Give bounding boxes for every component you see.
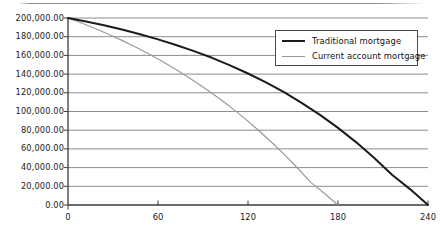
- mortgage-balance-chart: 200,000.00 180,000.00 160,000.00 140,000…: [0, 0, 442, 238]
- x-axis-label-60: 60: [153, 212, 164, 222]
- legend-label-current-account-mortgage: Current account mortgage: [312, 51, 425, 61]
- current-line-swatch-icon: [282, 56, 305, 57]
- traditional-line-swatch-icon: [282, 40, 305, 42]
- chart-legend: Traditional mortgage Current account mor…: [275, 30, 418, 66]
- legend-label-traditional-mortgage: Traditional mortgage: [312, 36, 401, 46]
- x-axis-label-240: 240: [420, 212, 436, 222]
- legend-entry-traditional-mortgage: Traditional mortgage: [282, 34, 401, 48]
- x-axis-label-180: 180: [330, 212, 346, 222]
- x-axis-label-120: 120: [240, 212, 256, 222]
- legend-entry-current-account-mortgage: Current account mortgage: [282, 49, 425, 63]
- x-axis-label-0: 0: [65, 212, 70, 222]
